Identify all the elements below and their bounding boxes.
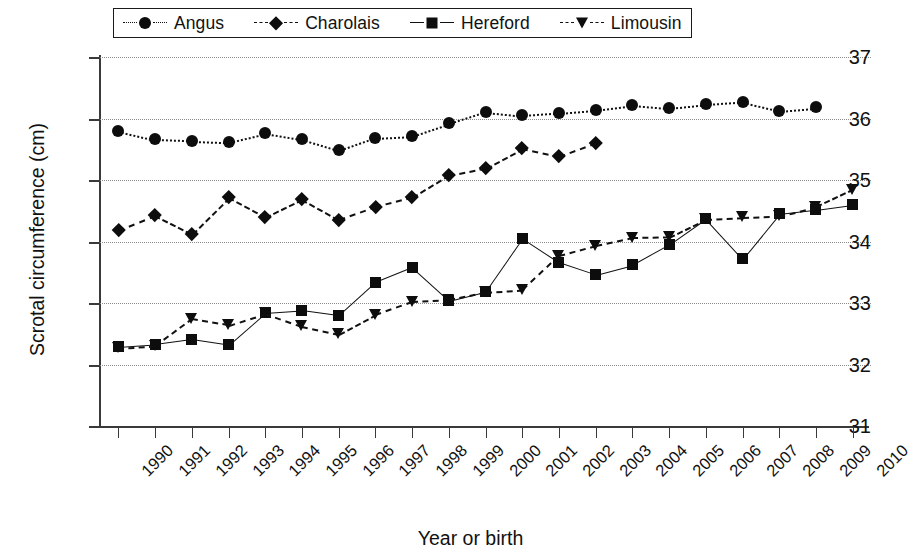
line-segment xyxy=(301,199,339,221)
line-segment xyxy=(154,215,192,235)
data-point-limousin-1994 xyxy=(259,307,271,318)
x-tick-label-1998: 1998 xyxy=(432,441,471,480)
data-point-angus-2002 xyxy=(553,107,565,119)
x-tick-2001 xyxy=(522,427,523,438)
y-tick-35 xyxy=(89,180,100,182)
data-point-charolais-2003 xyxy=(589,136,602,149)
y-tick-31 xyxy=(89,426,100,428)
legend-sample-charolais xyxy=(254,15,298,31)
legend-entry-limousin[interactable]: Limousin xyxy=(560,9,682,37)
square-marker-icon xyxy=(426,18,437,29)
legend-label: Hereford xyxy=(461,13,530,34)
y-tick-label-36: 36 xyxy=(787,107,871,130)
data-point-limousin-2001 xyxy=(516,284,528,295)
line-segment xyxy=(596,105,633,112)
x-tick-label-2004: 2004 xyxy=(652,441,691,480)
x-tick-1998 xyxy=(412,427,413,438)
line-segment xyxy=(596,265,633,276)
data-point-hereford-2009 xyxy=(810,204,821,215)
line-segment xyxy=(742,102,779,113)
line-segment xyxy=(155,139,192,142)
legend-entry-charolais[interactable]: Charolais xyxy=(254,9,380,37)
diamond-marker-icon xyxy=(269,16,282,29)
x-tick-1994 xyxy=(265,427,266,438)
line-segment xyxy=(192,141,229,144)
legend-sample-hereford xyxy=(410,15,454,31)
x-tick-label-1996: 1996 xyxy=(358,441,397,480)
x-tick-label-2010: 2010 xyxy=(872,441,911,480)
legend-entry-angus[interactable]: Angus xyxy=(123,9,224,37)
data-point-hereford-2000 xyxy=(480,286,491,297)
x-tick-2009 xyxy=(816,427,817,438)
y-tick-37 xyxy=(89,57,100,59)
line-segment xyxy=(559,262,596,275)
data-point-angus-2003 xyxy=(590,104,602,116)
data-point-limousin-1991 xyxy=(149,340,161,351)
x-tick-label-1993: 1993 xyxy=(248,441,287,480)
data-point-hereford-2002 xyxy=(553,257,564,268)
line-segment xyxy=(339,138,376,153)
x-tick-1990 xyxy=(118,427,119,438)
x-tick-label-2002: 2002 xyxy=(579,441,618,480)
data-point-limousin-1997 xyxy=(369,309,381,320)
line-segment xyxy=(155,318,193,347)
y-axis-title: Scrotal circumference (cm) xyxy=(26,40,49,440)
data-point-charolais-1997 xyxy=(369,200,382,213)
x-tick-2010 xyxy=(853,427,854,438)
y-tick-33 xyxy=(89,303,100,305)
line-segment xyxy=(632,105,669,110)
data-point-hereford-1991 xyxy=(150,339,161,350)
data-point-limousin-2002 xyxy=(552,250,564,261)
x-tick-label-1992: 1992 xyxy=(212,441,251,480)
y-tick-label-35: 35 xyxy=(787,169,871,192)
line-segment xyxy=(449,292,486,301)
data-point-charolais-2000 xyxy=(479,161,492,174)
line-segment xyxy=(522,148,559,158)
data-point-hereford-1992 xyxy=(186,334,197,345)
x-tick-2005 xyxy=(669,427,670,438)
line-segment xyxy=(522,255,560,291)
data-point-angus-2000 xyxy=(480,106,492,118)
data-point-charolais-2002 xyxy=(552,149,565,162)
legend-line-segment xyxy=(560,22,574,23)
plot-area xyxy=(100,57,871,426)
x-tick-label-1991: 1991 xyxy=(175,441,214,480)
line-segment xyxy=(339,314,377,335)
data-point-limousin-2007 xyxy=(736,211,748,222)
y-tick-label-37: 37 xyxy=(787,46,871,69)
x-axis-title: Year or birth xyxy=(0,527,871,550)
x-tick-label-1999: 1999 xyxy=(469,441,508,480)
legend-label: Limousin xyxy=(611,13,682,34)
data-point-limousin-2008 xyxy=(773,210,785,221)
legend-label: Angus xyxy=(174,13,224,34)
line-segment xyxy=(265,310,302,313)
data-point-limousin-2005 xyxy=(663,231,675,242)
x-tick-1993 xyxy=(229,427,230,438)
line-segment xyxy=(302,310,339,316)
data-point-angus-1994 xyxy=(259,127,271,139)
data-point-limousin-2000 xyxy=(479,286,491,297)
y-tick-36 xyxy=(89,119,100,121)
x-tick-label-1995: 1995 xyxy=(322,441,361,480)
legend-entry-hereford[interactable]: Hereford xyxy=(410,9,530,37)
x-tick-2002 xyxy=(559,427,560,438)
line-segment xyxy=(375,136,412,140)
line-segment xyxy=(559,142,596,157)
y-tick-label-34: 34 xyxy=(787,230,871,253)
line-segment xyxy=(412,123,449,137)
data-point-limousin-1996 xyxy=(332,328,344,339)
legend-line-segment xyxy=(440,22,454,23)
data-point-angus-2004 xyxy=(626,99,638,111)
line-segment xyxy=(301,326,338,336)
line-segment xyxy=(265,199,303,219)
data-point-charolais-1994 xyxy=(258,210,271,223)
line-segment xyxy=(118,345,155,349)
data-point-angus-1990 xyxy=(112,125,124,137)
line-segment xyxy=(632,245,669,266)
line-segment xyxy=(339,282,376,316)
x-tick-label-2009: 2009 xyxy=(836,441,875,480)
data-point-hereford-2008 xyxy=(774,208,785,219)
data-point-limousin-1995 xyxy=(295,320,307,331)
chart-legend: AngusCharolaisHerefordLimousin xyxy=(113,8,692,38)
x-tick-label-2008: 2008 xyxy=(799,441,838,480)
